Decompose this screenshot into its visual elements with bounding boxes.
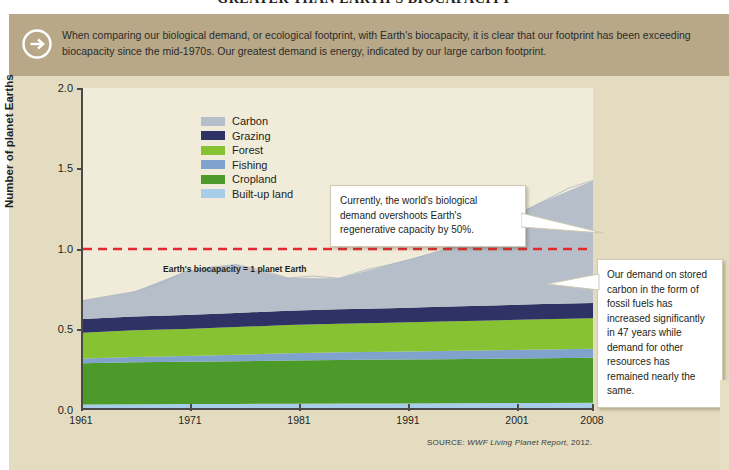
arrow-right-circle-icon: [22, 29, 52, 59]
x-tick-label-1981: 1981: [274, 414, 324, 426]
source-citation: SOURCE: WWF Living Planet Report, 2012.: [427, 438, 592, 447]
infographic-page: GREATER THAN EARTH'S BIOCAPACITY When co…: [0, 0, 729, 470]
legend-label-forest: Forest: [232, 144, 263, 156]
source-prefix: SOURCE:: [427, 438, 465, 447]
legend-swatch-cropland: [201, 175, 225, 184]
legend-item-cropland: Cropland: [201, 172, 293, 187]
legend-label-built-up-land: Built-up land: [232, 188, 293, 200]
x-tick-label-2001: 2001: [492, 414, 542, 426]
legend-swatch-forest: [201, 146, 225, 155]
legend-item-forest: Forest: [201, 143, 293, 158]
legend-item-built-up-land: Built-up land: [201, 187, 293, 202]
y-axis-title: Number of planet Earths: [3, 74, 15, 208]
legend-label-cropland: Cropland: [232, 173, 277, 185]
intro-banner: When comparing our biological demand, or…: [9, 14, 729, 76]
y-tick-label-0_5: 0.5: [39, 323, 73, 335]
right-margin: [720, 380, 729, 470]
chart-legend: Carbon Grazing Forest Fishing Cropland: [201, 114, 293, 201]
legend-swatch-built-up-land: [201, 189, 225, 198]
legend-item-fishing: Fishing: [201, 158, 293, 173]
y-tick-label-1_5: 1.5: [39, 162, 73, 174]
x-tick-mark-1971: [190, 404, 192, 411]
x-tick-label-1991: 1991: [383, 414, 433, 426]
stacked-area-plot: Carbon Grazing Forest Fishing Cropland: [81, 88, 593, 410]
x-tick-mark-2008: [592, 404, 594, 411]
x-tick-label-2008: 2008: [567, 414, 617, 426]
biocapacity-line-label: Earth's biocapacity = 1 planet Earth: [163, 264, 307, 274]
intro-banner-text: When comparing our biological demand, or…: [62, 27, 712, 59]
legend-item-grazing: Grazing: [201, 129, 293, 144]
x-tick-mark-2001: [517, 404, 519, 411]
series-area-cropland: [83, 358, 593, 405]
chart-area: Number of planet Earths 2.0 1.5 1.0 0.5 …: [9, 76, 729, 470]
callout-carbon: Our demand on stored carbon in the form …: [597, 259, 723, 408]
legend-label-grazing: Grazing: [232, 130, 271, 142]
x-tick-mark-1961: [81, 404, 83, 411]
callout-carbon-tail: [547, 272, 601, 294]
legend-label-carbon: Carbon: [232, 115, 268, 127]
x-tick-mark-1991: [408, 404, 410, 411]
legend-swatch-grazing: [201, 131, 225, 140]
x-tick-mark-1981: [299, 404, 301, 411]
callout-overshoot: Currently, the world's biological demand…: [330, 185, 526, 247]
legend-swatch-fishing: [201, 160, 225, 169]
source-year: 2012.: [571, 438, 592, 447]
source-title: WWF Living Planet Report,: [467, 438, 568, 447]
legend-label-fishing: Fishing: [232, 159, 267, 171]
legend-swatch-carbon: [201, 117, 225, 126]
page-title: GREATER THAN EARTH'S BIOCAPACITY: [217, 0, 511, 7]
x-tick-label-1971: 1971: [165, 414, 215, 426]
x-tick-label-1961: 1961: [56, 414, 106, 426]
callout-overshoot-tail: [521, 211, 605, 237]
page-title-strip: GREATER THAN EARTH'S BIOCAPACITY: [0, 0, 729, 14]
y-tick-label-2: 2.0: [39, 82, 73, 94]
area-chart-svg: [83, 88, 593, 410]
y-tick-label-1: 1.0: [39, 243, 73, 255]
legend-item-carbon: Carbon: [201, 114, 293, 129]
